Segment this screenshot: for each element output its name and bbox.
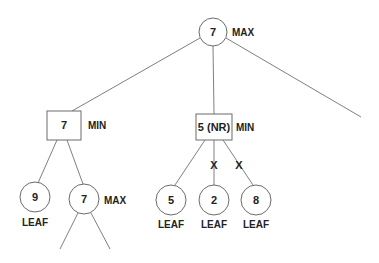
edge-max-left-to-child-left [60, 213, 78, 249]
node-root-type: MAX [232, 27, 255, 38]
node-root: 7 MAX [199, 18, 255, 46]
node-max-left-value: 7 [81, 193, 87, 205]
node-min-mid-type: MIN [236, 122, 254, 133]
prune-mark-leaf-8: X [235, 159, 243, 171]
edge-max-left-to-child-right [91, 213, 110, 249]
node-max-left: 7 MAX [69, 184, 127, 214]
edge-root-to-min-mid [213, 46, 214, 114]
node-min-left-type: MIN [88, 120, 106, 131]
node-leaf-9-value: 9 [32, 191, 38, 203]
node-leaf-9: 9 LEAF [20, 182, 50, 228]
node-max-left-type: MAX [104, 195, 127, 206]
node-leaf-2: 2 LEAF [199, 185, 229, 230]
node-root-value: 7 [210, 26, 216, 38]
prune-mark-leaf-2: X [210, 159, 218, 171]
node-leaf-9-type: LEAF [22, 217, 48, 228]
edge-min-mid-to-leaf-5 [175, 140, 205, 185]
minimax-tree-diagram: 7 MAX 7 MIN 5 (NR) MIN 9 LEAF 7 MAX 5 LE… [0, 0, 379, 263]
edge-min-left-to-max-left [67, 140, 83, 184]
node-min-mid: 5 (NR) MIN [196, 114, 254, 140]
edge-min-left-to-leaf-9 [38, 140, 57, 183]
node-leaf-8-value: 8 [253, 194, 259, 206]
edges [38, 38, 361, 249]
node-leaf-8: 8 LEAF [241, 185, 271, 230]
node-leaf-2-value: 2 [211, 194, 217, 206]
node-leaf-2-type: LEAF [201, 219, 227, 230]
node-min-mid-value: 5 (NR) [198, 121, 231, 133]
node-min-left-value: 7 [61, 119, 67, 131]
edge-root-to-min-left [72, 38, 200, 111]
node-leaf-5: 5 LEAF [156, 185, 186, 230]
node-leaf-5-type: LEAF [158, 219, 184, 230]
node-min-left: 7 MIN [47, 111, 106, 140]
node-leaf-8-type: LEAF [243, 219, 269, 230]
edge-root-to-right [226, 38, 361, 117]
node-leaf-5-value: 5 [168, 194, 174, 206]
